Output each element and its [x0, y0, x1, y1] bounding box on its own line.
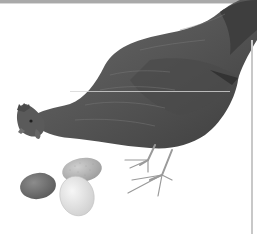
egg-white	[55, 172, 98, 219]
eggs	[18, 155, 103, 220]
illustration-frame	[0, 0, 257, 234]
hen-legs	[125, 145, 172, 196]
hen-eye	[29, 119, 32, 122]
egg-dark	[18, 171, 57, 202]
hen	[17, 0, 257, 148]
right-border	[251, 40, 253, 234]
hen-illustration	[0, 0, 257, 234]
faint-rule	[70, 91, 230, 92]
